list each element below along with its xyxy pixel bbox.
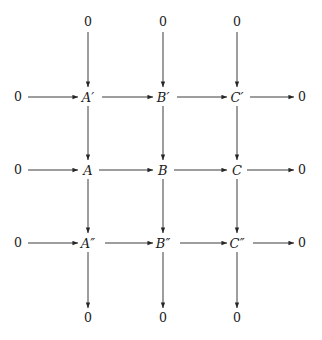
node-B: B	[158, 164, 168, 177]
node-B-prime: B′	[157, 91, 170, 104]
node-top-zero-col-C: 0	[233, 16, 241, 29]
node-left-zero-row2: 0	[14, 164, 22, 177]
node-right-zero-row1: 0	[298, 91, 306, 104]
node-C: C	[232, 164, 242, 177]
prime-mark: ″	[240, 236, 245, 251]
prime-mark: ′	[91, 90, 94, 105]
node-bottom-zero-col-B: 0	[159, 312, 167, 325]
node-bottom-zero-col-A: 0	[84, 312, 92, 325]
prime-mark: ′	[241, 90, 244, 105]
node-A-double-prime: A″	[81, 237, 95, 250]
node-A: A	[83, 164, 93, 177]
node-right-zero-row2: 0	[298, 164, 306, 177]
node-C-double-prime: C″	[229, 237, 244, 250]
node-left-zero-row3: 0	[14, 237, 22, 250]
node-top-zero-col-B: 0	[159, 16, 167, 29]
node-B-double-prime: B″	[156, 237, 171, 250]
node-left-zero-row1: 0	[14, 91, 22, 104]
node-top-zero-col-A: 0	[84, 16, 92, 29]
node-bottom-zero-col-C: 0	[233, 312, 241, 325]
prime-mark: ′	[166, 90, 169, 105]
node-right-zero-row3: 0	[298, 237, 306, 250]
prime-mark: ″	[165, 236, 170, 251]
commutative-diagram: 0A′B′C′00ABC00A″B″C″0000000	[0, 0, 322, 340]
prime-mark: ″	[90, 236, 95, 251]
node-A-prime: A′	[82, 91, 95, 104]
node-C-prime: C′	[230, 91, 243, 104]
